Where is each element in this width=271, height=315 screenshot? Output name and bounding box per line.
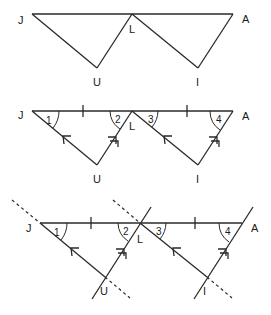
dashed-extension-J <box>12 200 40 223</box>
segment-LI <box>132 111 198 165</box>
label-A: A <box>242 110 250 122</box>
figure-3: 1 2 3 4 J L A U I <box>12 200 259 299</box>
label-J: J <box>18 14 24 26</box>
angle-label-2: 2 <box>115 114 121 125</box>
angle-label-2: 2 <box>123 226 129 237</box>
label-J: J <box>26 222 32 234</box>
geometry-diagram: J L A U I 1 2 3 4 J L A U I <box>0 0 271 315</box>
dashed-extension-U <box>105 277 130 298</box>
segment-IA <box>198 14 233 68</box>
label-U: U <box>93 76 101 88</box>
label-I: I <box>203 285 206 297</box>
angle-label-1: 1 <box>54 227 60 238</box>
label-L: L <box>129 23 135 35</box>
figure-1: J L A U I <box>18 13 250 88</box>
angle-arc-1 <box>53 111 59 128</box>
dashed-extension-L <box>113 200 140 223</box>
angle-label-4: 4 <box>216 114 222 125</box>
label-A: A <box>242 13 250 25</box>
angle-label-1: 1 <box>46 115 52 126</box>
label-I: I <box>196 173 199 185</box>
dashed-extension-I <box>207 277 232 298</box>
angle-label-3: 3 <box>156 226 162 237</box>
label-U: U <box>100 285 108 297</box>
angle-arc-1 <box>61 223 67 240</box>
angle-label-4: 4 <box>225 226 231 237</box>
label-I: I <box>196 76 199 88</box>
segment-UL <box>97 14 132 68</box>
label-L: L <box>129 120 135 132</box>
label-U: U <box>93 173 101 185</box>
figure-2: 1 2 3 4 J L A U I <box>18 105 250 185</box>
segment-LI <box>132 14 198 68</box>
label-A: A <box>251 222 259 234</box>
segment-JU <box>40 223 105 277</box>
segment-JU <box>32 111 97 165</box>
label-L: L <box>137 233 143 245</box>
angle-label-3: 3 <box>148 114 154 125</box>
label-J: J <box>18 109 24 121</box>
segment-JU <box>32 14 97 68</box>
